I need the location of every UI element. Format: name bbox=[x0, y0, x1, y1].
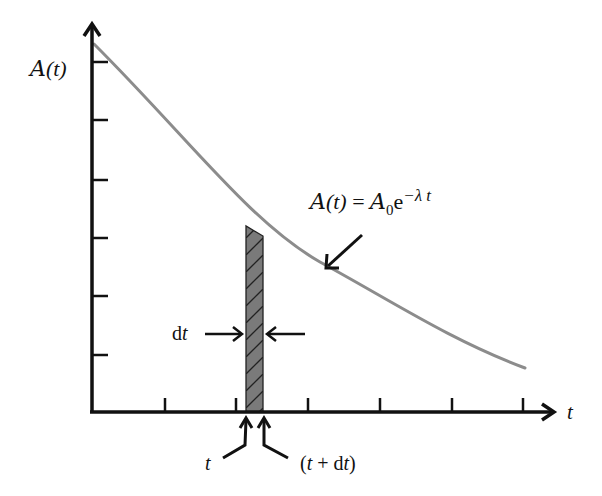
dt-t: t bbox=[182, 322, 188, 344]
eq-lhs-script: A bbox=[310, 189, 326, 214]
t-plus-dt-label: (t + dt) bbox=[300, 452, 356, 475]
decay-equation: A(t) = A0e−λ t bbox=[310, 186, 431, 219]
eq-rhs-exponent: −λ t bbox=[403, 186, 431, 205]
eq-rhs-script: A bbox=[370, 189, 386, 214]
decay-diagram bbox=[0, 0, 602, 496]
dt-label: dt bbox=[172, 322, 188, 345]
tpd-close: ) bbox=[349, 452, 356, 474]
y-axis-ticks bbox=[92, 62, 108, 355]
dt-left-arrow bbox=[205, 327, 242, 341]
t-pointer-arrow bbox=[223, 418, 252, 458]
x-axis-label: t bbox=[567, 400, 573, 425]
y-label-arg: (t) bbox=[46, 56, 67, 81]
tpd-open: ( bbox=[300, 452, 307, 474]
dt-right-arrow bbox=[267, 327, 305, 341]
x-axis-ticks bbox=[165, 398, 523, 412]
dt-d: d bbox=[172, 322, 182, 344]
dt-strip bbox=[246, 226, 263, 412]
y-label-script: A bbox=[30, 56, 46, 81]
eq-lhs-arg: (t) bbox=[326, 189, 347, 214]
eq-equals: = bbox=[352, 189, 364, 214]
equation-pointer-arrow bbox=[326, 235, 362, 268]
t-plus-dt-pointer-arrow bbox=[258, 418, 288, 458]
eq-rhs-base: e bbox=[393, 189, 403, 214]
tpd-plus-d: + d bbox=[312, 452, 343, 474]
y-axis-label: A(t) bbox=[30, 56, 67, 82]
t-label: t bbox=[205, 452, 211, 475]
x-axis bbox=[90, 404, 554, 420]
